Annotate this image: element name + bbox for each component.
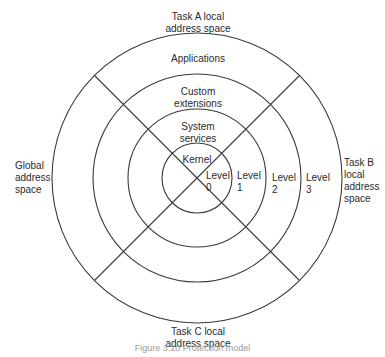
global-address-space-label: Global address space: [15, 160, 51, 196]
task-a-label: Task A local address space: [148, 11, 248, 35]
level-3-label: Level 3: [306, 172, 330, 196]
figure-caption: Figure 3.10 Protection model: [0, 343, 385, 353]
system-services-label: System services: [148, 121, 248, 145]
level-2-label: Level 2: [272, 172, 296, 196]
level-0-label: Level 0: [206, 170, 230, 194]
task-b-label: Task B local address space: [344, 157, 380, 205]
custom-extensions-label: Custom extensions: [148, 86, 248, 110]
level-1-label: Level 1: [237, 170, 261, 194]
applications-label: Applications: [148, 53, 248, 65]
kernel-label: Kernel: [168, 154, 226, 166]
